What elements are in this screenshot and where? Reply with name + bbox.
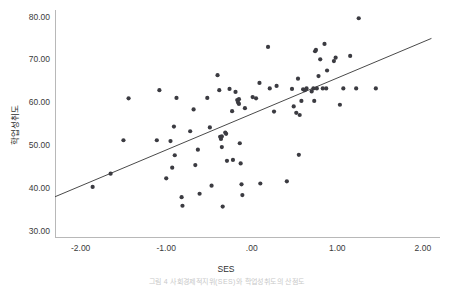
data-point bbox=[221, 205, 225, 209]
data-point bbox=[225, 159, 229, 163]
data-point bbox=[312, 99, 316, 103]
data-point bbox=[243, 106, 247, 110]
x-tick-label: -2.00 bbox=[71, 243, 91, 253]
data-point bbox=[297, 153, 301, 157]
data-point bbox=[322, 42, 326, 46]
data-point bbox=[316, 74, 320, 78]
data-point bbox=[237, 97, 241, 101]
data-point bbox=[230, 109, 234, 113]
data-point bbox=[292, 104, 296, 108]
data-point bbox=[193, 163, 197, 167]
data-point bbox=[224, 132, 228, 136]
y-tick-label: 70.00 bbox=[29, 54, 51, 64]
x-tick-label: -1.00 bbox=[157, 243, 177, 253]
data-point bbox=[296, 77, 300, 81]
x-tick-label: 2.00 bbox=[415, 243, 432, 253]
data-point bbox=[357, 16, 361, 20]
x-tick-label: 1.00 bbox=[329, 243, 346, 253]
data-point bbox=[354, 86, 358, 90]
y-axis-title: 학업성취도 bbox=[10, 105, 20, 145]
data-point bbox=[272, 109, 276, 113]
axes-group bbox=[55, 10, 440, 237]
data-point bbox=[155, 138, 159, 142]
data-point bbox=[239, 182, 243, 186]
data-point bbox=[374, 86, 378, 90]
data-point bbox=[274, 84, 278, 88]
data-point bbox=[197, 192, 201, 196]
data-point bbox=[196, 148, 200, 152]
data-point bbox=[314, 48, 318, 52]
data-point bbox=[334, 56, 338, 60]
y-tick-label: 50.00 bbox=[29, 140, 51, 150]
data-point bbox=[205, 96, 209, 100]
y-tick-label: 30.00 bbox=[29, 226, 51, 236]
data-point-group bbox=[91, 16, 378, 209]
data-point bbox=[325, 68, 329, 72]
x-axis-tick-labels: -2.00-1.00.001.002.00 bbox=[71, 243, 431, 253]
data-point bbox=[126, 96, 130, 100]
data-point bbox=[237, 102, 241, 106]
data-point bbox=[266, 45, 270, 49]
data-point bbox=[239, 161, 243, 165]
data-point bbox=[192, 107, 196, 111]
data-point bbox=[227, 87, 231, 91]
data-point bbox=[341, 86, 345, 90]
data-point bbox=[290, 87, 294, 91]
data-point bbox=[318, 57, 322, 61]
data-point bbox=[304, 86, 308, 90]
data-point bbox=[215, 73, 219, 77]
data-point bbox=[258, 181, 262, 185]
data-point bbox=[231, 158, 235, 162]
data-point bbox=[121, 138, 125, 142]
data-point bbox=[91, 185, 95, 189]
data-point bbox=[170, 166, 174, 170]
x-axis-title: SES bbox=[217, 264, 234, 274]
y-axis-tick-labels: 30.0040.0050.0060.0070.0080.00 bbox=[29, 12, 51, 236]
data-point bbox=[220, 134, 224, 138]
y-tick-label: 40.00 bbox=[29, 183, 51, 193]
data-point bbox=[217, 88, 221, 92]
data-point bbox=[299, 99, 303, 103]
data-point bbox=[109, 172, 113, 176]
data-point bbox=[208, 125, 212, 129]
data-point bbox=[324, 86, 328, 90]
data-point bbox=[164, 176, 168, 180]
data-point bbox=[180, 204, 184, 208]
data-point bbox=[188, 129, 192, 133]
data-point bbox=[172, 124, 176, 128]
data-point bbox=[220, 145, 224, 149]
data-point bbox=[268, 86, 272, 90]
data-point bbox=[257, 81, 261, 85]
data-point bbox=[157, 88, 161, 92]
figure-caption: 그림 4 사회경제적지위(SES)와 학업성취도의 산점도 bbox=[0, 277, 453, 286]
data-point bbox=[338, 103, 342, 107]
data-point bbox=[315, 86, 319, 90]
data-point bbox=[348, 54, 352, 58]
data-point bbox=[240, 193, 244, 197]
data-point bbox=[233, 90, 237, 94]
data-point bbox=[298, 113, 302, 117]
data-point bbox=[168, 139, 172, 143]
data-point bbox=[173, 153, 177, 157]
data-point bbox=[238, 141, 242, 145]
x-tick-label: .00 bbox=[246, 243, 258, 253]
data-point bbox=[254, 96, 258, 100]
data-point bbox=[285, 179, 289, 183]
data-point bbox=[209, 184, 213, 188]
data-point bbox=[180, 195, 184, 199]
y-tick-label: 60.00 bbox=[29, 97, 51, 107]
y-tick-label: 80.00 bbox=[29, 12, 51, 22]
data-point bbox=[174, 96, 178, 100]
